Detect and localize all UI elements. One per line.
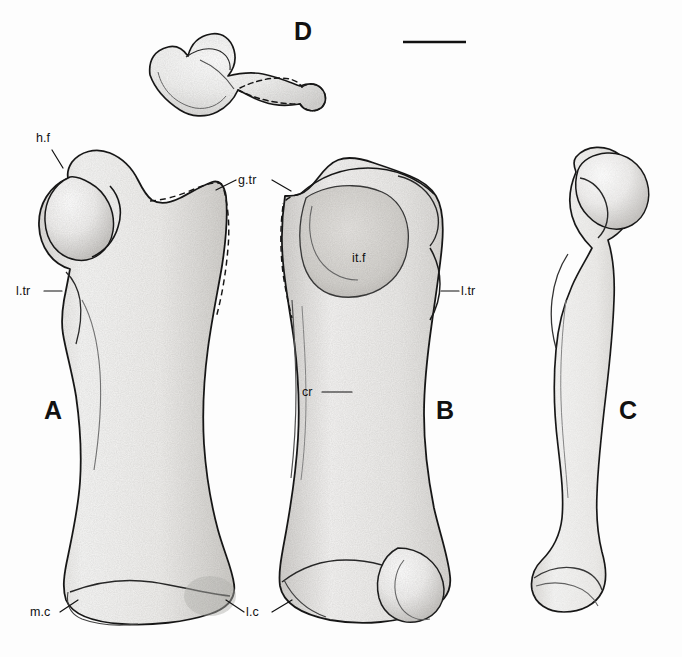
annotation-cr: cr [302, 385, 313, 399]
panel-label-c: C [619, 396, 637, 425]
annotation-l-tr-a: l.tr [16, 284, 30, 298]
panel-label-b: B [436, 396, 454, 425]
figure-plate: h.f l.tr g.tr it.f l.tr cr m.c l.c A B C… [0, 0, 682, 657]
specimen-A-distal-shadow [184, 576, 236, 616]
annotation-m-c: m.c [30, 605, 50, 619]
annotation-l-tr-b: l.tr [461, 284, 475, 298]
specimen-A [39, 150, 236, 625]
specimen-D [150, 34, 326, 116]
leader-l-c-right [272, 600, 292, 612]
leader-g-tr-right [272, 180, 291, 191]
leader-h-f [52, 150, 63, 168]
annotation-it-f: it.f [352, 251, 366, 265]
annotation-l-c: l.c [246, 605, 259, 619]
annotation-g-tr: g.tr [238, 173, 256, 187]
panel-label-a: A [44, 396, 62, 425]
illustration-canvas [0, 0, 682, 657]
specimen-B-intertrochanteric-fossa [300, 186, 408, 297]
panel-label-d: D [294, 17, 312, 46]
specimen-C [531, 147, 648, 612]
annotation-h-f: h.f [36, 131, 50, 145]
